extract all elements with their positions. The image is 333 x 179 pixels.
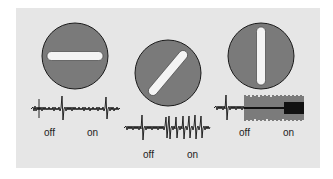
stimulus-disc-horizontal xyxy=(40,21,110,91)
spike-train-horizontal xyxy=(31,94,121,124)
label-off-3: off xyxy=(239,127,250,138)
spike-train-vertical xyxy=(214,92,306,124)
label-on-3: on xyxy=(283,127,294,138)
label-off-2: off xyxy=(143,149,154,160)
spike-train-oblique xyxy=(124,112,216,144)
stimulus-disc-oblique xyxy=(133,38,203,108)
label-on-1: on xyxy=(87,127,98,138)
label-off-1: off xyxy=(44,127,55,138)
stimulus-disc-vertical xyxy=(226,21,296,91)
label-on-2: on xyxy=(187,149,198,160)
